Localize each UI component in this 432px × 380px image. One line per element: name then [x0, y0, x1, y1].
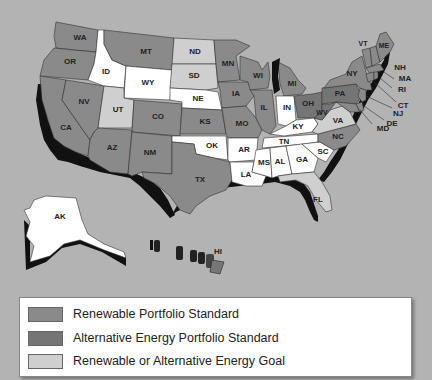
state-label-NY: NY: [346, 69, 358, 78]
state-label-NH: NH: [394, 63, 406, 72]
legend-swatch-aeps: [28, 331, 63, 346]
state-label-HI: HI: [214, 247, 222, 256]
state-label-NC: NC: [332, 132, 344, 141]
state-label-IL: IL: [260, 103, 267, 112]
legend-label-rps: Renewable Portfolio Standard: [73, 307, 239, 321]
state-label-MA: MA: [399, 74, 412, 83]
state-HI[interactable]: [150, 240, 224, 274]
state-label-NJ: NJ: [393, 109, 403, 118]
state-label-IA: IA: [232, 89, 240, 98]
legend-item-rps: Renewable Portfolio Standard: [28, 306, 239, 322]
state-label-MN: MN: [222, 59, 235, 68]
state-label-MO: MO: [236, 119, 249, 128]
state-label-NE: NE: [192, 94, 204, 103]
state-label-RI: RI: [398, 85, 406, 94]
state-label-KY: KY: [292, 122, 304, 131]
legend-label-aeps: Alternative Energy Portfolio Standard: [73, 331, 279, 345]
state-label-OR: OR: [64, 57, 76, 66]
state-label-ME: ME: [379, 42, 390, 49]
leader-line-ct: [374, 82, 396, 102]
legend-swatch-goal: [28, 354, 63, 369]
leader-line-nj: [366, 96, 392, 108]
state-label-TN: TN: [279, 137, 290, 146]
state-label-MS: MS: [258, 158, 271, 167]
state-label-WA: WA: [74, 33, 87, 42]
state-label-AK: AK: [54, 212, 66, 221]
lake-michigan: [272, 58, 280, 94]
legend-swatch-rps: [28, 307, 63, 322]
state-label-CA: CA: [60, 123, 72, 132]
state-label-WV: WV: [316, 109, 328, 116]
state-label-AR: AR: [238, 145, 250, 154]
state-label-UT: UT: [113, 105, 124, 114]
state-label-PA: PA: [335, 89, 346, 98]
leader-line-md: [360, 110, 372, 124]
state-label-KS: KS: [199, 117, 211, 126]
state-label-IN: IN: [283, 103, 291, 112]
state-label-MT: MT: [140, 47, 152, 56]
legend-item-goal: Renewable or Alternative Energy Goal: [28, 353, 285, 369]
state-label-SD: SD: [188, 71, 199, 80]
state-label-ND: ND: [189, 47, 201, 56]
state-AK[interactable]: [24, 196, 126, 262]
state-label-FL: FL: [313, 195, 323, 204]
state-label-TX: TX: [195, 175, 206, 184]
state-label-ID: ID: [102, 67, 110, 76]
state-label-NM: NM: [144, 148, 157, 157]
state-label-WY: WY: [142, 78, 156, 87]
state-label-CO: CO: [152, 112, 164, 121]
state-label-AZ: AZ: [107, 143, 118, 152]
state-label-AL: AL: [275, 157, 286, 166]
leader-line-ri: [380, 78, 392, 88]
state-label-GA: GA: [296, 155, 308, 164]
leader-line-ma: [384, 72, 394, 79]
legend-item-aeps: Alternative Energy Portfolio Standard: [28, 330, 279, 346]
legend-label-goal: Renewable or Alternative Energy Goal: [73, 354, 285, 368]
state-label-VT: VT: [359, 40, 369, 47]
state-label-OK: OK: [206, 141, 218, 150]
state-label-SC: SC: [317, 147, 328, 156]
legend: Renewable Portfolio Standard Alternative…: [19, 297, 412, 377]
state-label-LA: LA: [241, 170, 252, 179]
state-label-WI: WI: [253, 71, 263, 80]
us-state-map: WA OR CA NV ID MT WY UT AZ CO NM ND SD N…: [0, 0, 432, 295]
state-label-MI: MI: [288, 79, 297, 88]
state-label-NV: NV: [78, 97, 90, 106]
state-label-VA: VA: [333, 116, 344, 125]
state-label-MD: MD: [377, 124, 390, 133]
state-label-OH: OH: [302, 99, 314, 108]
